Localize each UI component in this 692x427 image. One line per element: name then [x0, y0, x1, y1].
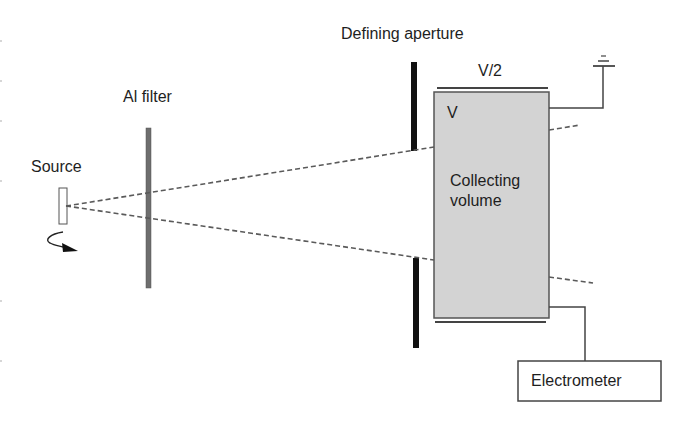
collecting-volume-label-line1: Collecting [450, 171, 550, 191]
volume-potential-label: V [447, 104, 458, 122]
edge-speck [0, 300, 2, 302]
ground-icon [593, 56, 615, 66]
al-filter-bar [146, 128, 151, 288]
electrometer-wire [549, 307, 585, 361]
collecting-volume-label-line2: volume [450, 191, 550, 211]
plate-potential-label: V/2 [478, 62, 502, 80]
source-label: Source [31, 158, 82, 176]
aperture-upper-bar [411, 62, 417, 151]
source-rect [59, 188, 67, 224]
electrometer-label: Electrometer [531, 372, 622, 390]
ionization-chamber-diagram [0, 0, 692, 427]
collecting-volume-label: Collecting volume [450, 171, 550, 211]
filter-label: Al filter [123, 88, 172, 106]
rotation-arrow-icon [48, 232, 78, 252]
edge-speck [0, 180, 2, 182]
aperture-lower-bar [413, 258, 419, 348]
edge-speck [0, 80, 2, 82]
ground-wire [549, 66, 603, 108]
edge-speck [0, 360, 2, 362]
edge-speck [0, 120, 2, 122]
aperture-label: Defining aperture [341, 25, 464, 43]
edge-speck [0, 40, 2, 42]
